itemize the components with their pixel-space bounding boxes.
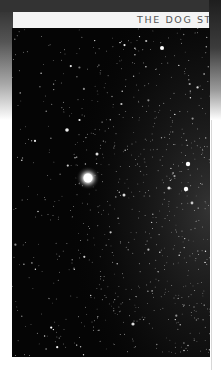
star-field-image [12,28,210,357]
background-sky-top [0,0,221,12]
star-field-photo [12,28,210,357]
header-title: THE DOG ST [137,14,209,25]
header-bar: THE DOG ST [13,12,209,28]
right-page-edge [209,0,221,120]
right-page-line [211,120,212,370]
page: THE DOG ST [0,0,221,370]
